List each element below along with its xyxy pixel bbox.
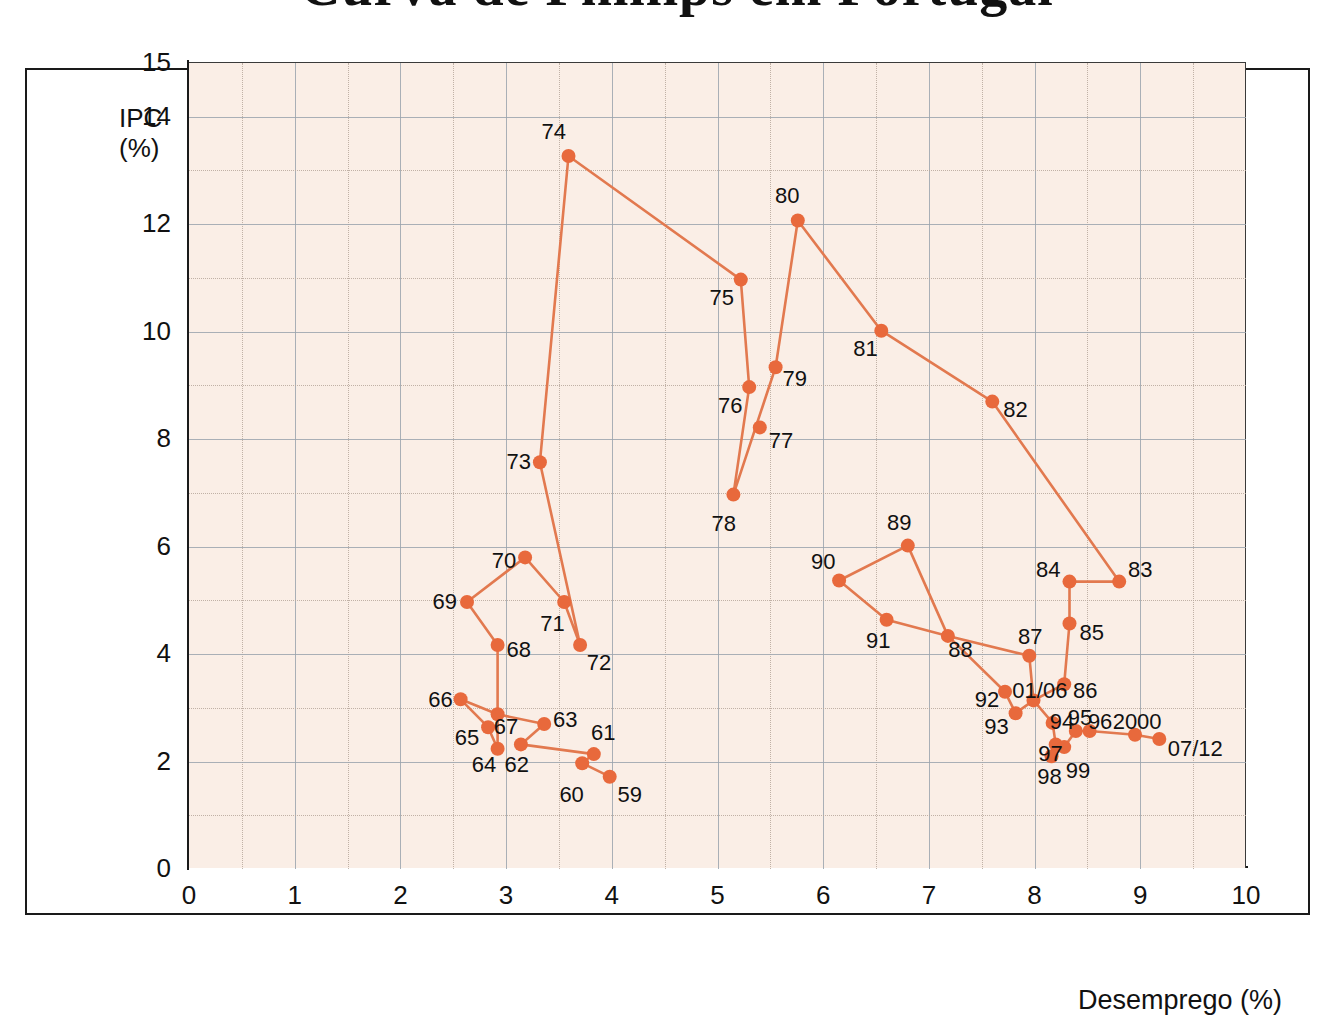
y-tick-label: 12 (111, 208, 171, 239)
x-tick-label: 10 (1216, 880, 1276, 911)
y-tick-label: 8 (111, 423, 171, 454)
gridline-horizontal (189, 332, 1246, 333)
gridline-vertical-minor (242, 63, 244, 869)
x-tick-label: 5 (688, 880, 748, 911)
y-tick-label: 0 (111, 853, 171, 884)
data-point-label: 83 (1128, 557, 1152, 583)
x-tick-label: 7 (899, 880, 959, 911)
gridline-horizontal-minor (189, 170, 1246, 172)
data-point-label: 72 (587, 650, 611, 676)
data-point-label: 73 (507, 449, 531, 475)
gridline-horizontal-minor (189, 815, 1246, 817)
data-point-label: 68 (507, 637, 531, 663)
data-point-label: 01/06 (1012, 678, 1067, 704)
gridline-vertical (189, 63, 190, 869)
gridline-vertical (929, 63, 930, 869)
gridline-vertical-minor (982, 63, 984, 869)
gridline-horizontal-minor (189, 493, 1246, 495)
data-point-label: 59 (618, 782, 642, 808)
gridline-vertical (823, 63, 824, 869)
data-point-label: 69 (433, 589, 457, 615)
data-point-label: 98 (1037, 764, 1061, 790)
gridline-vertical-minor (770, 63, 772, 869)
data-point-label: 89 (887, 510, 911, 536)
data-point-label: 84 (1036, 557, 1060, 583)
data-point-label: 90 (811, 549, 835, 575)
gridline-vertical (1140, 63, 1141, 869)
x-tick-label: 6 (793, 880, 853, 911)
gridline-vertical (718, 63, 719, 869)
data-point-label: 85 (1079, 620, 1103, 646)
y-tick-label: 15 (111, 47, 171, 78)
data-point-label: 82 (1003, 397, 1027, 423)
data-point-label: 80 (775, 183, 799, 209)
x-tick-label: 3 (476, 880, 536, 911)
data-point-label: 81 (853, 336, 877, 362)
data-point-label: 79 (782, 366, 806, 392)
gridline-vertical (1035, 63, 1036, 869)
x-tick-label: 1 (265, 880, 325, 911)
data-point-label: 91 (866, 628, 890, 654)
data-point-label: 07/12 (1168, 736, 1223, 762)
gridline-horizontal-minor (189, 600, 1246, 602)
data-point-label: 74 (541, 119, 565, 145)
gridline-vertical (400, 63, 401, 869)
data-point-label: 88 (948, 637, 972, 663)
data-point-label: 65 (455, 725, 479, 751)
data-point-label: 64 (472, 752, 496, 778)
title-strip: Curva de Phillips em Portugal (0, 0, 1336, 62)
data-point-label: 60 (559, 782, 583, 808)
x-tick-label: 9 (1110, 880, 1170, 911)
data-point-label: 77 (769, 428, 793, 454)
data-point-label: 71 (540, 611, 564, 637)
data-point-label: 70 (492, 548, 516, 574)
x-tick-label: 4 (582, 880, 642, 911)
data-point-label: 67 (494, 714, 518, 740)
data-point-label: 61 (591, 720, 615, 746)
gridline-horizontal-minor (189, 385, 1246, 387)
y-tick-label: 4 (111, 638, 171, 669)
y-tick-label: 6 (111, 530, 171, 561)
data-point-label: 76 (718, 393, 742, 419)
data-point-label: 92 (975, 687, 999, 713)
data-point-label: 75 (709, 285, 733, 311)
page-title: Curva de Phillips em Portugal (300, 0, 1054, 18)
gridline-vertical (1246, 63, 1247, 869)
data-point-label: 63 (553, 707, 577, 733)
y-tick-label: 2 (111, 745, 171, 776)
data-point-label: 93 (984, 714, 1008, 740)
y-tick-label: 14 (111, 100, 171, 131)
gridline-vertical-minor (559, 63, 561, 869)
gridline-vertical-minor (876, 63, 878, 869)
gridline-horizontal (189, 224, 1246, 225)
gridline-horizontal (189, 547, 1246, 548)
x-tick-label: 0 (159, 880, 219, 911)
gridline-horizontal (189, 117, 1246, 118)
gridline-vertical-minor (665, 63, 667, 869)
y-tick-label: 10 (111, 315, 171, 346)
data-point-label: 96 (1088, 709, 1112, 735)
gridline-vertical (295, 63, 296, 869)
data-point-label: 78 (712, 511, 736, 537)
gridline-horizontal (189, 654, 1246, 655)
y-axis-label-line2: (%) (119, 134, 162, 164)
gridline-horizontal (189, 439, 1246, 440)
data-point-label: 62 (504, 752, 528, 778)
data-point-label: 2000 (1113, 709, 1162, 735)
gridline-horizontal-minor (189, 278, 1246, 280)
gridline-vertical-minor (1087, 63, 1089, 869)
data-point-label: 66 (428, 687, 452, 713)
gridline-vertical (612, 63, 613, 869)
data-point-label: 86 (1073, 678, 1097, 704)
gridline-vertical-minor (348, 63, 350, 869)
x-tick-label: 8 (1005, 880, 1065, 911)
plot-area (189, 62, 1246, 868)
data-point-label: 87 (1018, 624, 1042, 650)
x-axis-label: Desemprego (%) (1078, 985, 1282, 1016)
data-point-label: 99 (1066, 758, 1090, 784)
x-tick-label: 2 (370, 880, 430, 911)
